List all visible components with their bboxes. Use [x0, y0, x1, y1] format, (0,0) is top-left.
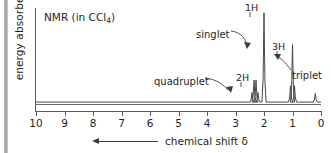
x-axis-tick-label: 5 [168, 117, 190, 129]
x-axis-tick [36, 111, 37, 116]
x-axis-tick-label: 2 [253, 117, 275, 129]
x-axis-tick [150, 111, 151, 116]
x-axis-tick-label: 8 [82, 117, 104, 129]
x-axis-tick [207, 111, 208, 116]
singlet-leader-line [231, 31, 247, 46]
plot-title-text: NMR (in CCl [44, 11, 106, 23]
x-axis-tick-label: 10 [25, 117, 47, 129]
x-axis-tick-label: 1 [282, 117, 304, 129]
x-axis-tick [65, 111, 66, 116]
x-axis-tick-label: 3 [225, 117, 247, 129]
triplet-arrowhead [274, 54, 281, 60]
triplet-leader-line [276, 56, 291, 70]
spectrum-trace-group [36, 13, 321, 102]
singlet-arrowhead [244, 42, 251, 49]
x-axis-tick [93, 111, 94, 116]
x-axis-tick [179, 111, 180, 116]
y-axis-label-text: energy absorbed [13, 0, 25, 80]
x-axis-tick-label: 6 [139, 117, 161, 129]
x-axis-tick [293, 111, 294, 116]
x-axis-tick-label: 9 [54, 117, 76, 129]
singlet-label: singlet [196, 29, 230, 40]
x-axis-caption-text: chemical shift δ [165, 135, 248, 147]
y-axis-line [35, 8, 36, 112]
integration-3h: 3H [272, 41, 285, 52]
plot-title: NMR (in CCl4) [44, 11, 115, 25]
x-axis-tick [236, 111, 237, 116]
nmr-spectrum-figure: energy absorbed NMR (in CCl4) 1098765432… [0, 0, 331, 153]
x-axis-tick [122, 111, 123, 116]
x-axis-tick-label: 0 [310, 117, 331, 129]
plot-title-suffix: ) [111, 11, 115, 23]
x-axis-tick [321, 111, 322, 116]
triplet-label: triplet [292, 70, 322, 81]
x-axis-caption: chemical shift δ [92, 133, 272, 149]
x-axis-tick-label: 4 [196, 117, 218, 129]
integration-2h: 2H [236, 72, 249, 83]
spectrum-trace [36, 13, 321, 102]
spectrum-baseline [36, 104, 321, 105]
y-axis-label: energy absorbed [13, 0, 27, 85]
quadruplet-arrowhead [226, 86, 233, 93]
quadruplet-label: quadruplet [154, 76, 209, 87]
integration-1h: 1H [245, 2, 258, 13]
left-arrow-icon [92, 137, 158, 146]
page-edge-strip [4, 0, 8, 153]
x-axis-tick [264, 111, 265, 116]
x-axis-tick-label: 7 [111, 117, 133, 129]
